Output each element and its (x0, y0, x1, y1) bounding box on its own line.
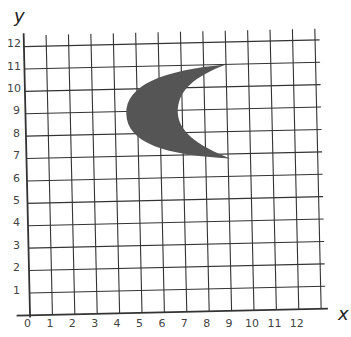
y-tick-label: 10 (7, 82, 21, 95)
y-tick-label: 5 (13, 194, 20, 207)
grid-line-vertical (46, 35, 52, 315)
x-tick-label: 11 (267, 317, 281, 330)
x-axis-label: x (337, 303, 349, 324)
x-tick-label: 0 (24, 317, 31, 330)
y-tick-label: 4 (13, 216, 20, 229)
y-tick-label: 2 (13, 261, 20, 274)
x-tick-label: 2 (69, 317, 76, 330)
grid-line-vertical (68, 34, 74, 314)
crescent-shape (125, 64, 230, 160)
grid-line-vertical (248, 30, 254, 310)
y-tick-label: 3 (13, 239, 20, 252)
x-tick-label: 10 (245, 317, 259, 330)
grid-line-vertical (292, 29, 298, 309)
x-tick-label: 5 (136, 317, 143, 330)
grid-line-vertical (158, 32, 164, 312)
y-tick-label: 9 (13, 104, 20, 117)
grid-line-vertical (270, 30, 276, 310)
x-tick-label: 4 (114, 317, 121, 330)
x-tick-label: 3 (91, 317, 98, 330)
grid-line-vertical (315, 29, 321, 309)
y-axis-label: y (13, 5, 25, 26)
grid-line-vertical (91, 34, 97, 314)
grid-line-vertical (113, 33, 119, 313)
y-tick-label: 8 (13, 127, 20, 140)
x-tick-label: 9 (226, 317, 233, 330)
x-tick-label: 1 (46, 317, 53, 330)
grid (10, 26, 328, 317)
y-tick-label: 7 (13, 149, 20, 162)
x-tick-label: 6 (158, 317, 165, 330)
y-tick-label: 1 (13, 284, 20, 297)
y-tick-label: 12 (7, 37, 21, 50)
x-tick-label: 7 (181, 317, 188, 330)
coordinate-grid-figure: 0123456789101112123456789101112 x y (0, 0, 351, 337)
grid-line-vertical (225, 31, 231, 311)
x-tick-label: 8 (203, 317, 210, 330)
x-tick-label: 12 (290, 317, 304, 330)
x-axis-line (17, 309, 328, 316)
y-axis-line (24, 33, 30, 317)
crescent (125, 64, 230, 160)
y-tick-label: 6 (13, 172, 20, 185)
y-tick-label: 11 (7, 60, 21, 73)
grid-line-vertical (136, 33, 142, 313)
